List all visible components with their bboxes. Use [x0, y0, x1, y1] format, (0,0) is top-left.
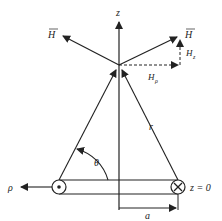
- theta-angle: θ: [77, 149, 108, 180]
- r-label: r: [149, 121, 153, 132]
- svg-text:ρ: ρ: [154, 78, 158, 84]
- current-loop: z = 0: [52, 180, 211, 194]
- a-label: a: [145, 210, 150, 221]
- z0-label: z = 0: [189, 182, 211, 193]
- h-left-label: H: [47, 29, 56, 40]
- rho-label: ρ: [7, 182, 13, 193]
- hz-label: H: [185, 48, 193, 58]
- hrho-label: H: [147, 72, 155, 82]
- h-field-vectors: H H H z H ρ: [47, 29, 196, 84]
- svg-text:z: z: [192, 54, 196, 60]
- theta-label: θ: [94, 157, 99, 168]
- z-axis-label: z: [115, 7, 120, 18]
- h-right-label: H: [184, 29, 193, 40]
- radius-a-dimension: a: [119, 194, 178, 221]
- rho-axis: ρ: [7, 182, 52, 193]
- current-loop-diagram: z H H H z H ρ r θ z = 0: [0, 0, 222, 221]
